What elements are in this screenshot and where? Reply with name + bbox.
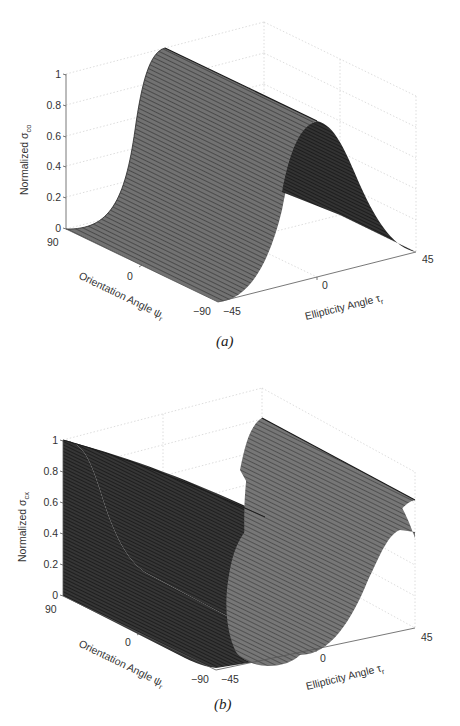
caption-a: (a) bbox=[216, 333, 234, 350]
svg-text:0.6: 0.6 bbox=[46, 130, 61, 142]
surface-front-face bbox=[66, 48, 317, 302]
svg-text:0.2: 0.2 bbox=[46, 191, 61, 203]
svg-text:1: 1 bbox=[55, 68, 61, 80]
x-tick-90: 90 bbox=[47, 236, 59, 248]
svg-text:0: 0 bbox=[52, 589, 58, 601]
x-axis-label-b: Orientation Angle ψr bbox=[76, 637, 167, 692]
x-tick-90: 90 bbox=[45, 603, 57, 615]
x-tick-0: 0 bbox=[127, 270, 133, 282]
y-tick-45: 45 bbox=[421, 631, 433, 643]
y-axis-label-b: Ellipticity Angle τr bbox=[305, 661, 386, 695]
y-tick-neg45: −45 bbox=[223, 305, 241, 317]
caption-b: (b) bbox=[214, 696, 232, 713]
figure-a: 1 0.8 0.6 0.4 0.2 0 90 0 −90 −45 0 45 No… bbox=[0, 0, 460, 370]
svg-text:0.8: 0.8 bbox=[46, 99, 61, 111]
surface-back-face bbox=[282, 121, 416, 252]
x-tick-neg90: −90 bbox=[191, 673, 209, 685]
svg-text:0.8: 0.8 bbox=[43, 465, 58, 477]
x-tick-neg90: −90 bbox=[193, 305, 211, 317]
y-tick-neg45: −45 bbox=[221, 673, 239, 685]
svg-text:0.6: 0.6 bbox=[43, 496, 58, 508]
z-axis-label-b: Normalized σcx bbox=[16, 492, 31, 562]
surface-plot-b: 1 0.8 0.6 0.4 0.2 0 90 0 −90 −45 0 45 No… bbox=[0, 370, 460, 726]
svg-text:1: 1 bbox=[52, 434, 58, 446]
x-axis-label-a: Orientation Angle ψr bbox=[76, 269, 167, 324]
z-tick-labels-a: 1 0.8 0.6 0.4 0.2 0 bbox=[46, 68, 61, 234]
surface-plot-a: 1 0.8 0.6 0.4 0.2 0 90 0 −90 −45 0 45 No… bbox=[0, 0, 460, 370]
svg-text:0.4: 0.4 bbox=[46, 160, 61, 172]
y-tick-0: 0 bbox=[320, 652, 326, 664]
x-tick-0: 0 bbox=[125, 636, 131, 648]
svg-text:0.2: 0.2 bbox=[43, 558, 58, 570]
z-tick-labels-b: 1 0.8 0.6 0.4 0.2 0 bbox=[43, 434, 58, 601]
svg-text:0.4: 0.4 bbox=[43, 527, 58, 539]
svg-text:0: 0 bbox=[55, 222, 61, 234]
figure-b: 1 0.8 0.6 0.4 0.2 0 90 0 −90 −45 0 45 No… bbox=[0, 370, 460, 726]
y-axis-label-a: Ellipticity Angle τr bbox=[304, 291, 385, 325]
y-tick-45: 45 bbox=[422, 253, 434, 265]
z-axis-label-a: Normalized σco bbox=[18, 125, 33, 195]
y-tick-0: 0 bbox=[322, 279, 328, 291]
